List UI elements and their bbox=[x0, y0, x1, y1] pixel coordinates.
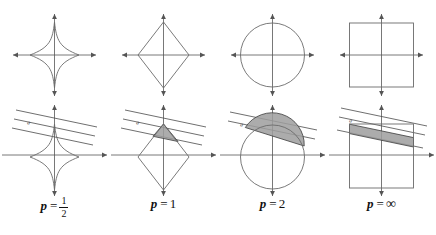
caption-equals: = bbox=[48, 198, 59, 213]
panel-bottom-p-infinity: a p=∞ bbox=[327, 100, 436, 235]
axes-group bbox=[329, 105, 434, 196]
arrow-right-icon bbox=[309, 53, 314, 58]
axes-group bbox=[340, 14, 423, 96]
caption-p-two: p=2 bbox=[218, 196, 327, 212]
arrow-right-icon bbox=[418, 53, 423, 58]
arrow-up-icon bbox=[161, 105, 166, 110]
caption-value: 2 bbox=[279, 196, 286, 211]
arrow-right-icon bbox=[91, 53, 96, 58]
axes-group bbox=[2, 105, 107, 196]
caption-variable: p bbox=[367, 196, 375, 211]
fraction-numerator: 1 bbox=[59, 196, 68, 208]
caption-variable: p bbox=[41, 198, 49, 213]
band-label: a bbox=[349, 117, 353, 123]
arrow-left-icon bbox=[122, 53, 127, 58]
caption-value: ∞ bbox=[386, 196, 396, 211]
arrow-right-icon bbox=[102, 153, 107, 158]
caption-value: 1 bbox=[170, 196, 177, 211]
panel-bottom-p-one: a p=1 bbox=[109, 100, 218, 235]
caption-p-half: p=12 bbox=[0, 196, 109, 219]
arrow-left-icon bbox=[13, 53, 18, 58]
arrow-left-icon bbox=[340, 53, 345, 58]
caption-p-one: p=1 bbox=[109, 196, 218, 212]
arrow-down-icon bbox=[379, 91, 384, 96]
axes-group bbox=[231, 14, 314, 96]
astroid-with-band-svg: a bbox=[0, 100, 109, 200]
arrow-up-icon bbox=[52, 105, 57, 110]
arrow-up-icon bbox=[379, 105, 384, 110]
shaded-region-circular-segment bbox=[245, 113, 304, 146]
circle-with-band-svg: a bbox=[218, 100, 327, 200]
fraction-denominator: 2 bbox=[59, 208, 68, 219]
arrow-left-icon bbox=[231, 53, 236, 58]
square-with-band-svg: a bbox=[327, 100, 436, 200]
arrow-right-icon bbox=[320, 153, 325, 158]
diamond-with-band-svg: a bbox=[109, 100, 218, 200]
caption-fraction: 12 bbox=[59, 196, 68, 219]
axes-group bbox=[111, 105, 216, 196]
axes-group bbox=[13, 14, 96, 96]
caption-equals: = bbox=[158, 196, 169, 211]
caption-equals: = bbox=[267, 196, 278, 211]
caption-equals: = bbox=[375, 196, 386, 211]
panel-bottom-p-two: a p=2 bbox=[218, 100, 327, 235]
arrow-right-icon bbox=[211, 153, 216, 158]
panel-bottom-p-half: a p=12 bbox=[0, 100, 109, 235]
arrow-up-icon bbox=[379, 14, 384, 19]
axes-group bbox=[122, 14, 205, 96]
arrow-down-icon bbox=[270, 91, 275, 96]
arrow-up-icon bbox=[161, 14, 166, 19]
lp-unit-balls-figure: a p=12 a p=1 bbox=[0, 0, 436, 235]
band-line-upper bbox=[341, 108, 427, 126]
arrow-right-icon bbox=[200, 53, 205, 58]
arrow-up-icon bbox=[270, 14, 275, 19]
arrow-down-icon bbox=[161, 91, 166, 96]
arrow-down-icon bbox=[52, 91, 57, 96]
arrow-up-icon bbox=[270, 105, 275, 110]
caption-p-infinity: p=∞ bbox=[327, 196, 436, 212]
arrow-right-icon bbox=[429, 153, 434, 158]
arrow-up-icon bbox=[52, 14, 57, 19]
